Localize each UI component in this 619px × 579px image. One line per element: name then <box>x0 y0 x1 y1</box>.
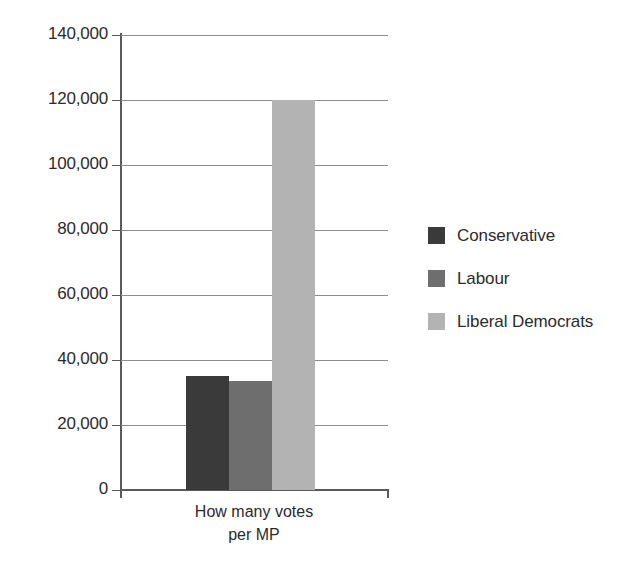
x-axis-label-line-1: How many votes <box>148 500 360 523</box>
legend-swatch-icon <box>428 270 445 287</box>
legend-swatch-icon <box>428 313 445 330</box>
bar-conservative <box>186 376 229 490</box>
x-axis-category-label: How many votes per MP <box>148 500 360 546</box>
y-axis-tick-label: 20,000 <box>4 414 108 434</box>
y-axis-tick-label: 120,000 <box>4 89 108 109</box>
legend-label: Conservative <box>457 226 555 246</box>
bar-labour <box>229 381 272 490</box>
y-axis-tick-label: 100,000 <box>4 154 108 174</box>
legend-label: Labour <box>457 269 509 289</box>
y-axis-tick-label: 80,000 <box>4 219 108 239</box>
legend-label: Liberal Democrats <box>457 312 593 332</box>
bar-chart-figure: 020,00040,00060,00080,000100,000120,0001… <box>0 0 619 579</box>
bar-liberal-democrats <box>272 100 315 490</box>
y-axis-tick-label: 0 <box>4 479 108 499</box>
bars-group <box>120 35 388 490</box>
legend-entry: Labour <box>428 257 593 300</box>
chart-legend: ConservativeLabourLiberal Democrats <box>428 214 593 343</box>
legend-entry: Conservative <box>428 214 593 257</box>
legend-entry: Liberal Democrats <box>428 300 593 343</box>
y-axis-tick-label: 40,000 <box>4 349 108 369</box>
y-axis-tick-label: 140,000 <box>4 24 108 44</box>
x-axis-label-line-2: per MP <box>148 523 360 546</box>
y-axis-tick-mark <box>112 490 121 491</box>
x-axis-end-tick <box>387 489 389 498</box>
y-axis-tick-label: 60,000 <box>4 284 108 304</box>
legend-swatch-icon <box>428 227 445 244</box>
